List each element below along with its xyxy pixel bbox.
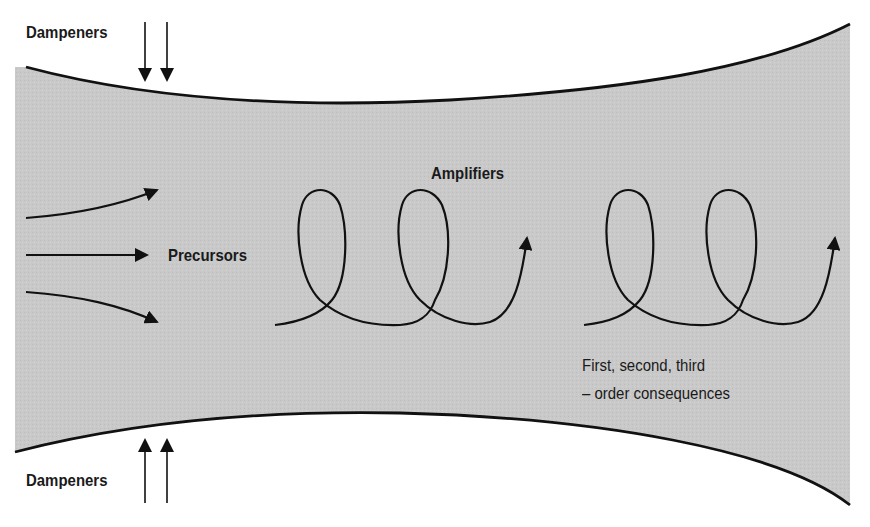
channel-shape [15, 24, 850, 505]
precursors-label: Precursors [168, 246, 247, 266]
consequences-label-line1: First, second, third [582, 354, 705, 377]
dampeners-bottom-label: Dampeners [26, 471, 107, 491]
consequences-label-line2: – order consequences [582, 382, 730, 405]
dampener-arrows-top [145, 22, 167, 80]
diagram-canvas [0, 0, 870, 527]
dampeners-top-label: Dampeners [26, 23, 107, 43]
amplifiers-label: Amplifiers [431, 164, 504, 184]
dampener-arrows-bottom [145, 440, 167, 503]
